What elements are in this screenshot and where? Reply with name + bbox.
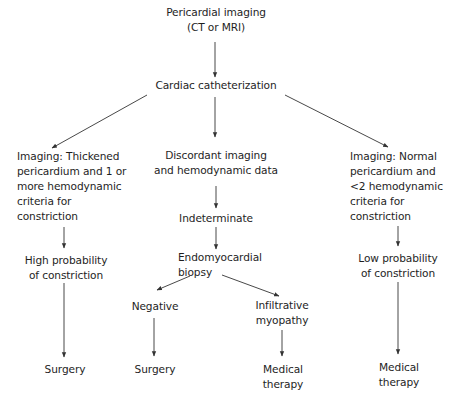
node-text: therapy [263,377,304,392]
node-text: Medical [379,360,420,375]
node-text: Discordant imaging [154,148,278,163]
node-text: of constriction [358,266,437,281]
arrow-cath-to-right [285,95,388,147]
node-text: pericardium and 1 or [17,164,126,179]
node-text: constriction [17,209,126,224]
node-text: High probability [25,253,108,268]
node-text: Imaging: Thickened [17,149,126,164]
node-indeterminate: Indeterminate [179,211,253,226]
node-text: (CT or MRI) [166,20,266,35]
node-text: Indeterminate [179,211,253,226]
node-text: Low probability [358,251,437,266]
node-text: Pericardial imaging [166,5,266,20]
node-text: pericardium and [350,164,443,179]
node-text: Surgery [45,362,86,377]
node-medical-therapy-mid: Medical therapy [263,362,304,392]
node-negative: Negative [132,299,179,314]
node-text: and hemodynamic data [154,163,278,178]
node-low-probability: Low probability of constriction [358,251,437,281]
node-surgery-left: Surgery [45,362,86,377]
node-text: criteria for [17,194,126,209]
node-text: <2 hemodynamic [350,179,443,194]
node-cardiac-catheterization: Cardiac catheterization [155,78,276,93]
node-text: Imaging: Normal [350,149,443,164]
node-imaging-normal: Imaging: Normal pericardium and <2 hemod… [350,149,443,224]
arrow-cath-to-left [52,95,147,148]
node-text: Medical [263,362,304,377]
node-text: Negative [132,299,179,314]
node-surgery-mid: Surgery [135,362,176,377]
node-pericardial-imaging: Pericardial imaging (CT or MRI) [166,5,266,35]
node-text: Endomyocardial [178,250,262,265]
node-discordant: Discordant imaging and hemodynamic data [154,148,278,178]
node-text: more hemodynamic [17,179,126,194]
node-medical-therapy-right: Medical therapy [379,360,420,390]
node-text: Infiltrative [255,298,308,313]
node-high-probability: High probability of constriction [25,253,108,283]
node-text: biopsy [178,265,262,280]
node-infiltrative-myopathy: Infiltrative myopathy [255,298,308,328]
node-text: myopathy [255,313,308,328]
node-text: constriction [350,209,443,224]
node-imaging-thickened: Imaging: Thickened pericardium and 1 or … [17,149,126,224]
node-text: Cardiac catheterization [155,78,276,93]
node-text: criteria for [350,194,443,209]
node-endomyocardial-biopsy: Endomyocardial biopsy [178,250,262,280]
node-text: therapy [379,375,420,390]
node-text: of constriction [25,268,108,283]
node-text: Surgery [135,362,176,377]
